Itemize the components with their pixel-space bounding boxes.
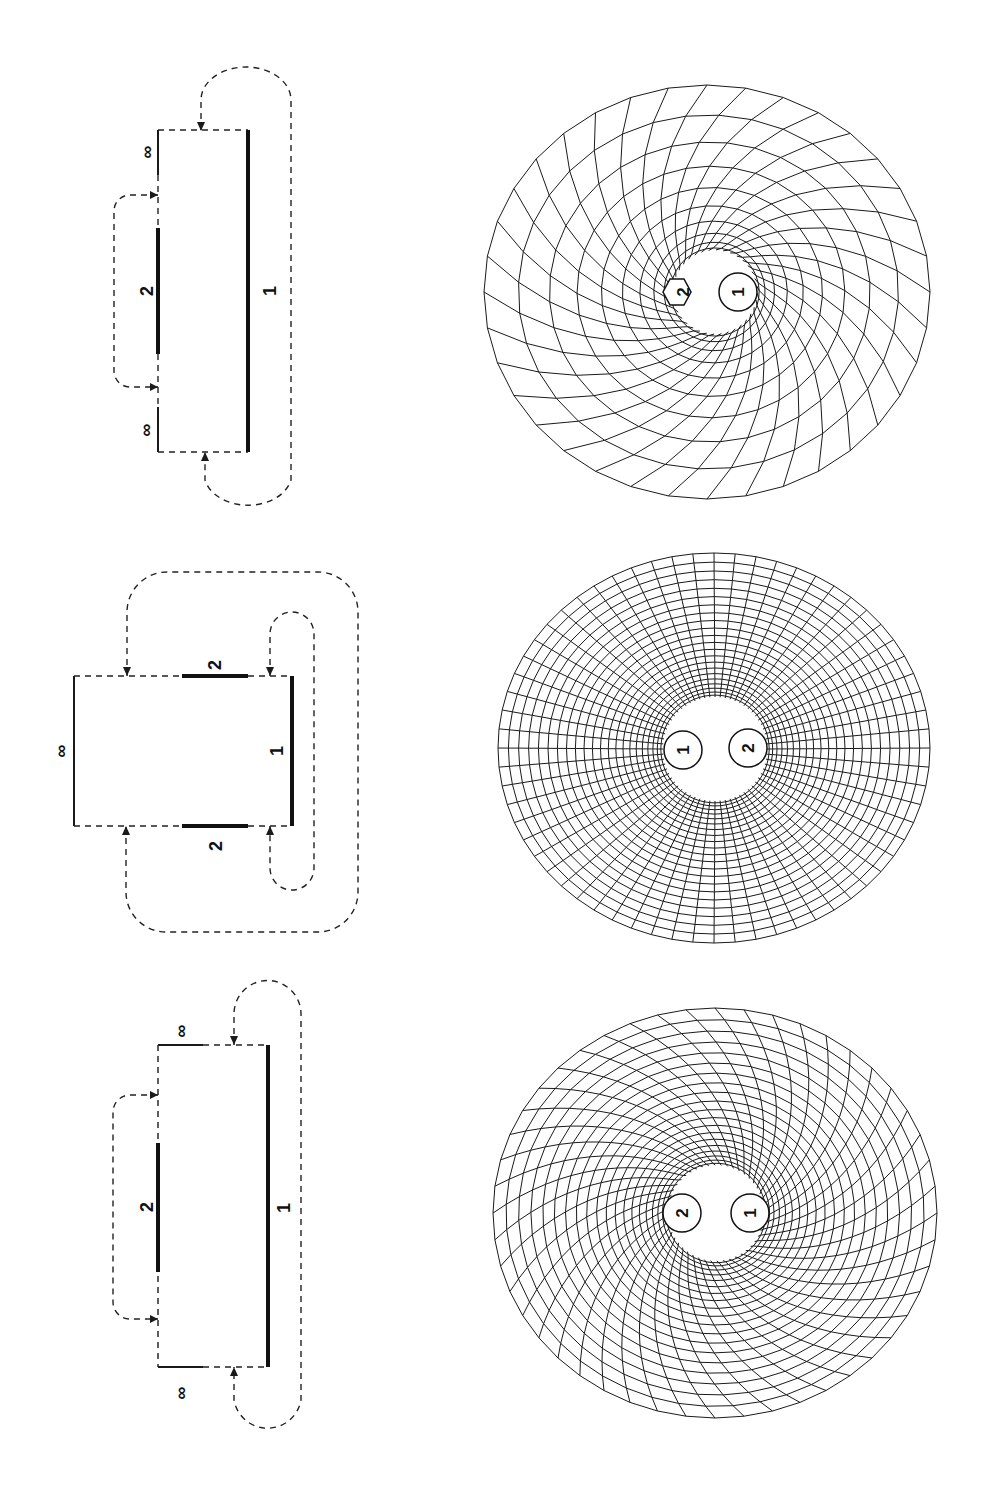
label-boundary-1: 1 <box>267 746 287 756</box>
label-infinity: ∞ <box>51 744 71 757</box>
panel-a-holes: 2 1 <box>663 273 757 311</box>
hole-label-2: 2 <box>673 1208 692 1217</box>
arrow-up-icon <box>266 826 274 835</box>
panel-b-mesh <box>498 553 930 943</box>
panel-a-mesh <box>484 85 930 499</box>
label-boundary-1: 1 <box>260 286 280 296</box>
arrow-down-icon <box>230 1036 238 1045</box>
label-infinity-top: ∞ <box>171 1024 191 1037</box>
hole-label-1: 1 <box>674 745 693 754</box>
label-boundary-2-top: 2 <box>205 660 225 670</box>
panel-c-holes: 2 1 <box>663 1194 769 1232</box>
panel-a-diagram: 2 1 ∞ ∞ <box>114 67 291 505</box>
hole-label-1: 1 <box>729 287 748 296</box>
label-infinity-top: ∞ <box>137 145 157 158</box>
arrow-right-icon <box>150 1315 158 1323</box>
arrow-right-icon <box>150 1091 158 1099</box>
hole-label-1: 1 <box>741 1208 760 1217</box>
arrow-up-icon <box>201 452 209 461</box>
label-infinity-bottom: ∞ <box>171 1386 191 1399</box>
panel-c-diagram: 2 1 ∞ ∞ <box>113 981 301 1429</box>
hole-label-2: 2 <box>674 287 693 296</box>
panel-c-mesh <box>493 1008 937 1418</box>
arrow-right-icon <box>150 383 158 391</box>
panel-b-holes: 1 2 <box>664 729 767 769</box>
figure: 2 1 ∞ ∞ 2 2 1 ∞ <box>0 0 991 1500</box>
arrow-right-icon <box>150 191 158 199</box>
label-boundary-2: 2 <box>137 286 157 296</box>
arrow-down-icon <box>266 667 274 676</box>
label-boundary-2: 2 <box>137 1202 157 1212</box>
label-infinity-bottom: ∞ <box>136 423 156 436</box>
arrow-down-icon <box>123 667 131 676</box>
label-boundary-1: 1 <box>274 1203 294 1213</box>
panel-b-diagram: 2 2 1 ∞ <box>51 572 358 932</box>
arrow-up-icon <box>122 826 130 835</box>
label-boundary-2-bottom: 2 <box>206 841 226 851</box>
arrow-up-icon <box>230 1367 238 1376</box>
hole-label-2: 2 <box>739 743 758 752</box>
outer-identification-loop <box>126 572 358 932</box>
